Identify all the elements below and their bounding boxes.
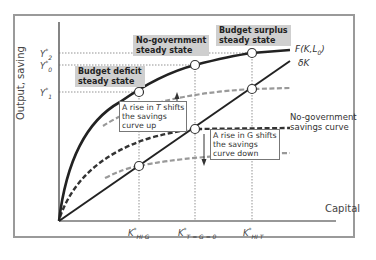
- x-tick-k-t-g-0: K*T = G = 0: [178, 226, 216, 240]
- up-arrowhead-icon: [175, 92, 180, 99]
- x-tick-k-hi-g: K*HI G: [128, 226, 149, 240]
- y-axis-label: Output, saving: [15, 46, 26, 120]
- x-axis-label: Capital: [325, 204, 360, 214]
- production-function-label: F(K,L0): [295, 44, 325, 58]
- no-government-savings-label: No-governmentsavings curve: [290, 112, 357, 132]
- depreciation-label: δK: [298, 58, 309, 68]
- y-tick-y0: Y*0: [40, 59, 52, 73]
- budget-surplus-label: Budget surplussteady state: [216, 25, 291, 46]
- rise-in-g-annotation: A rise in G shiftsthe savingscurve down: [210, 129, 280, 160]
- budget-deficit-label: Budget deficitsteady state: [75, 66, 145, 87]
- rise-in-t-annotation: A rise in T shiftsthe savingscurve up: [119, 101, 187, 132]
- x-tick-k-hi-t: K*HI T: [243, 226, 263, 240]
- down-arrowhead-icon: [202, 159, 207, 166]
- no-government-steady-state-label: No-governmentsteady state: [133, 35, 209, 56]
- y-tick-y1: Y*1: [40, 86, 52, 100]
